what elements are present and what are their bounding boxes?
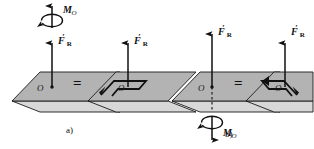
equals-sign-a: = — [73, 76, 82, 91]
origin-label-a-left: O — [37, 84, 44, 93]
force-label-a-right: F′R — [134, 36, 148, 46]
origin-label-a-right: O — [118, 84, 125, 93]
force-label-b-left: F′R — [218, 27, 232, 37]
moment-label-a: MO — [63, 5, 77, 15]
origin-label-b-left: O — [198, 84, 205, 93]
force-label-a-left: F′R — [58, 36, 72, 46]
caption-a: a) — [66, 126, 73, 135]
equals-sign-b: = — [234, 76, 243, 91]
panel-a-moment-group — [42, 6, 63, 28]
figure-vector-graphics — [0, 0, 314, 149]
force-label-b-right: F′R — [291, 27, 305, 37]
origin-label-b-right: O — [275, 84, 282, 93]
caption-b: b) — [225, 130, 233, 139]
figure-container: MO F′R O = F′R O a) F′R O MO = F′R O b) — [0, 0, 314, 149]
panel-b-moment-group — [202, 116, 223, 140]
